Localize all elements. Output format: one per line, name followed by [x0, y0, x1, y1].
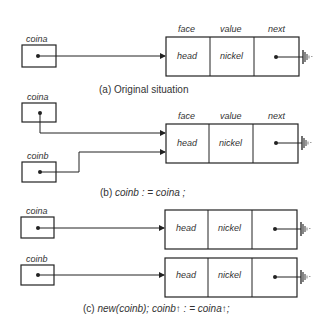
value-value: nickel — [218, 270, 242, 280]
field-label-next: next — [268, 111, 286, 121]
value-value: nickel — [218, 223, 242, 233]
pointer-arrow-coinb — [40, 152, 165, 172]
nil-ground-icon — [303, 50, 313, 64]
face-value: head — [177, 51, 198, 61]
nil-ground-icon — [301, 222, 311, 236]
caption-c: (c) new(coinb); coinb↑ : = coina↑; — [83, 303, 230, 314]
face-value: head — [176, 223, 197, 233]
field-label-face: face — [178, 111, 195, 121]
caption-b: (b) coinb : = coina ; — [100, 187, 186, 198]
face-value: head — [177, 138, 198, 148]
pointer-label-coina: coina — [26, 206, 48, 216]
panel-c: coina head nickel coinb head nickel (c) … — [21, 206, 311, 314]
panel-a: coina face value next head nickel (a) Or… — [22, 24, 313, 95]
field-label-next: next — [268, 24, 286, 34]
nil-ground-icon — [301, 270, 311, 284]
field-label-value: value — [220, 111, 242, 121]
value-value: nickel — [219, 138, 243, 148]
pointer-label-coina: coina — [27, 92, 49, 102]
pointer-label-coinb: coinb — [27, 151, 49, 161]
field-label-value: value — [220, 24, 242, 34]
pointer-label-coina: coina — [26, 34, 48, 44]
linked-record-diagram: coina face value next head nickel (a) Or… — [0, 0, 331, 330]
value-value: nickel — [220, 51, 244, 61]
nil-ground-icon — [302, 136, 312, 150]
field-label-face: face — [178, 24, 195, 34]
panel-b: coina coinb face value next head nickel … — [22, 92, 312, 198]
pointer-label-coinb: coinb — [26, 254, 48, 264]
caption-a: (a) Original situation — [99, 84, 188, 95]
pointer-arrow-coina — [40, 113, 165, 133]
face-value: head — [176, 270, 197, 280]
